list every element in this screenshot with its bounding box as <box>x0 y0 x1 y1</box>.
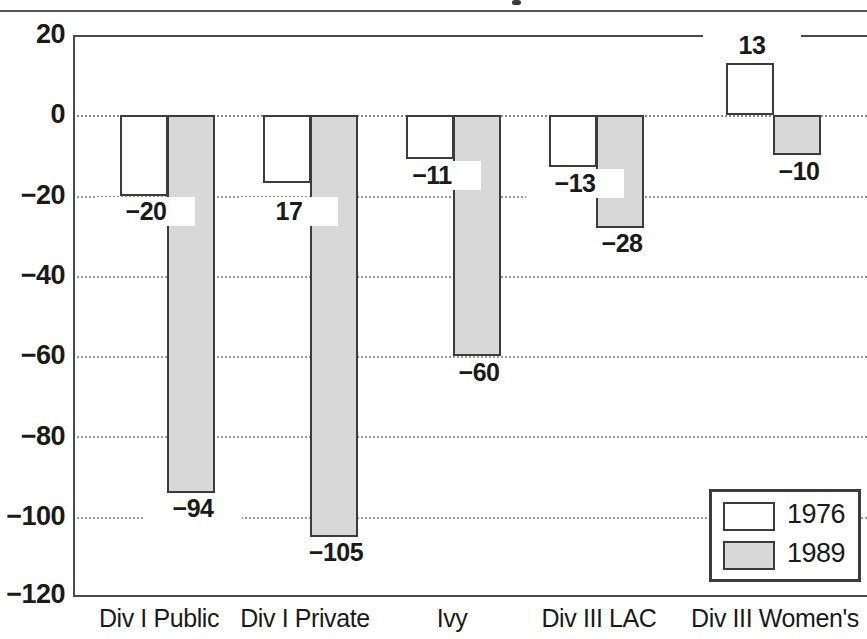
chart-legend: 1976 1989 <box>709 489 861 582</box>
page-divider-rule <box>0 10 867 12</box>
y-tick-label-m100: −100 <box>0 501 65 532</box>
y-tick-label-m20: −20 <box>0 180 65 211</box>
x-label-div-iii-womens: Div III Women's <box>680 604 867 633</box>
y-tick-label-0: 0 <box>0 99 65 130</box>
x-label-div-i-private: Div I Private <box>220 604 390 633</box>
bar-label-1976-div-iii-lac: −13 <box>526 169 624 198</box>
chart-figure: 20 0 −20 −40 −60 −80 −100 −120 −20 −94 1… <box>0 0 867 639</box>
bar-label-1976-div-iii-womens: 13 <box>703 31 801 60</box>
x-label-div-iii-lac: Div III LAC <box>518 604 680 633</box>
y-tick-label-20: 20 <box>0 19 65 50</box>
bar-label-1989-div-iii-womens: −10 <box>750 157 848 186</box>
legend-swatch-1989-icon <box>723 541 775 570</box>
y-tick-label-m120: −120 <box>0 579 65 610</box>
y-tick-label-m60: −60 <box>0 340 65 371</box>
bar-label-1976-div-i-public: −20 <box>97 197 195 226</box>
bar-label-1989-ivy: −60 <box>430 358 528 387</box>
y-tick-label-m80: −80 <box>0 421 65 452</box>
bar-label-1976-ivy: −11 <box>383 161 481 190</box>
y-tick-label-m40: −40 <box>0 260 65 291</box>
bar-label-1976-div-i-private: 17 <box>240 197 338 226</box>
bar-label-1989-div-i-private: −105 <box>278 538 394 567</box>
legend-label-1989: 1989 <box>787 538 845 569</box>
bar-label-1989-div-iii-lac: −28 <box>573 229 671 258</box>
x-label-ivy: Ivy <box>393 604 511 633</box>
legend-label-1976: 1976 <box>787 499 845 530</box>
x-label-div-i-public: Div I Public <box>78 604 240 633</box>
bar-label-1989-div-i-public: −94 <box>144 494 242 523</box>
legend-swatch-1976-icon <box>723 502 775 531</box>
cropped-title-mark <box>512 0 521 5</box>
